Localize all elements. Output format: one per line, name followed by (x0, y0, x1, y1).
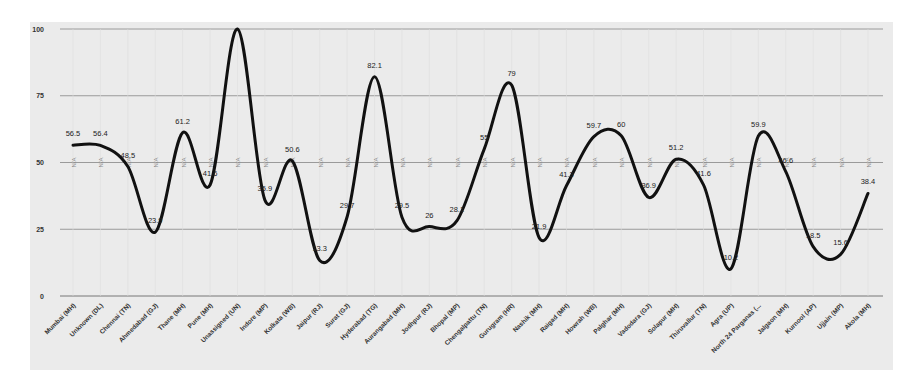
y-tick-label: 0 (40, 293, 44, 300)
data-label: 26 (425, 211, 433, 220)
data-label: 10.2 (724, 253, 739, 262)
x-tick-label: Agra (UP) (708, 302, 735, 329)
na-label: N/A (811, 157, 817, 167)
data-label: 51.2 (669, 143, 684, 152)
na-label: N/A (647, 157, 653, 167)
na-label: N/A (729, 157, 735, 167)
data-label: 15.6 (833, 238, 848, 247)
na-label: N/A (455, 157, 461, 167)
x-tick-label: Ujjain (MP) (816, 302, 845, 331)
x-tick-label: North 24 Parganas (... (710, 302, 763, 355)
data-label: 29.5 (395, 201, 410, 210)
y-tick-label: 50 (36, 159, 44, 166)
x-axis-ticks: Mumbai (MH)Unknown (DL)Chennai (TN)Ahmed… (43, 302, 873, 355)
data-label: 61.2 (175, 117, 190, 126)
na-label: N/A (181, 157, 187, 167)
data-label: 55 (480, 133, 488, 142)
data-label: 35.9 (258, 184, 273, 193)
data-label: 82.1 (367, 61, 382, 70)
data-label: 60 (617, 120, 625, 129)
data-label: 41.6 (203, 169, 218, 178)
na-label: N/A (318, 157, 324, 167)
data-label: 48.5 (121, 151, 136, 160)
data-label: 18.5 (806, 231, 821, 240)
na-label: N/A (71, 157, 77, 167)
data-label: 59.9 (751, 120, 766, 129)
data-label: 38.4 (861, 177, 876, 186)
data-label: 41.3 (559, 170, 574, 179)
data-label: 41.6 (696, 169, 711, 178)
na-label: N/A (866, 157, 872, 167)
y-tick-label: 25 (36, 226, 44, 233)
na-label: N/A (400, 157, 406, 167)
x-tick-label: Thane (MH) (156, 302, 187, 333)
na-label: N/A (427, 157, 433, 167)
series-line (73, 29, 868, 269)
na-label: N/A (592, 157, 598, 167)
data-labels: 56.556.448.523.961.241.635.950.613.329.7… (66, 61, 876, 262)
data-label: 21.9 (532, 222, 547, 231)
data-label: 56.5 (66, 129, 81, 138)
na-label: N/A (373, 157, 379, 167)
data-label: 59.7 (587, 121, 602, 130)
data-label: 29.7 (340, 201, 355, 210)
na-label: N/A (702, 157, 708, 167)
x-tick-label: Pune (MH) (186, 302, 214, 330)
y-tick-label: 75 (36, 92, 44, 99)
y-tick-label: 100 (32, 26, 44, 33)
data-label: 23.9 (148, 216, 163, 225)
na-label: N/A (153, 157, 159, 167)
na-label: N/A (564, 157, 570, 167)
na-label: N/A (839, 157, 845, 167)
na-label: N/A (756, 157, 762, 167)
na-label: N/A (98, 157, 104, 167)
data-label: 56.4 (93, 129, 108, 138)
x-tick-label: Akola (MH) (843, 302, 873, 332)
na-label: N/A (619, 157, 625, 167)
na-label: N/A (345, 157, 351, 167)
data-label: 50.6 (285, 145, 300, 154)
y-axis-ticks: 0255075100 (32, 26, 44, 300)
na-label: N/A (510, 157, 516, 167)
data-label: 13.3 (312, 244, 327, 253)
na-label: N/A (235, 157, 241, 167)
x-tick-label: Jaipur (RJ) (294, 302, 324, 332)
line-chart: 0255075100 N/AN/AN/AN/AN/AN/AN/AN/AN/AN/… (0, 0, 921, 388)
data-label: 79 (507, 69, 515, 78)
data-label: 46.6 (778, 156, 793, 165)
x-tick-label: Surat (GJ) (324, 302, 352, 330)
data-label: 28.1 (449, 205, 464, 214)
data-label: 36.9 (641, 181, 656, 190)
na-label: N/A (537, 157, 543, 167)
na-label: N/A (263, 157, 269, 167)
na-label: N/A (482, 157, 488, 167)
